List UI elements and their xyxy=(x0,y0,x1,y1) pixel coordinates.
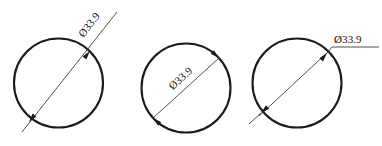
circle-outline-1 xyxy=(14,39,103,128)
leader-line-1 xyxy=(22,12,117,132)
leader-shelf-3 xyxy=(327,47,379,53)
drawing-sheet: Ø33.9 Ø33.9 xyxy=(0,0,382,146)
technical-drawing-canvas: Ø33.9 Ø33.9 xyxy=(0,0,382,146)
diagonal-reference-line-3 xyxy=(259,51,329,116)
figure-1-diameter-outside-leader: Ø33.9 xyxy=(14,10,117,132)
dimension-label-2: Ø33.9 xyxy=(166,64,195,92)
figure-3-diameter-leader-shelf: Ø33.9 xyxy=(249,33,379,128)
dimension-label-3: Ø33.9 xyxy=(334,33,362,45)
dimension-label-1: Ø33.9 xyxy=(76,10,103,39)
leader-tail-3 xyxy=(249,113,261,124)
figure-2-diameter-inside-dimension: Ø33.9 xyxy=(142,44,231,133)
